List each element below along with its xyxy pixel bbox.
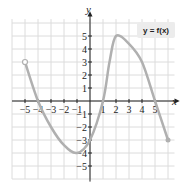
x-tick-label: −5 (20, 104, 31, 115)
closed-endpoint-icon (166, 138, 171, 143)
open-endpoint-icon (23, 60, 28, 65)
y-tick-label: 4 (82, 44, 87, 55)
x-axis-label: x (171, 95, 177, 107)
x-tick-label: −3 (46, 104, 57, 115)
x-tick-label: −2 (59, 104, 70, 115)
legend: y = f(x) (137, 22, 175, 38)
y-tick-label: 3 (82, 57, 87, 68)
y-tick-label: −2 (76, 122, 87, 133)
y-tick-label: −5 (76, 161, 87, 172)
y-tick-label: 1 (82, 83, 87, 94)
y-tick-label: −3 (76, 135, 87, 146)
legend-label: y = f(x) (143, 26, 169, 35)
function-graph: −5−4−3−2−112345−5−4−3−2−112345 y = f(x) … (0, 0, 183, 191)
y-tick-label: 5 (82, 31, 87, 42)
y-tick-label: −1 (76, 109, 87, 120)
x-tick-label: 4 (140, 104, 145, 115)
y-axis-label: y (85, 3, 91, 15)
x-tick-label: 3 (127, 104, 132, 115)
function-curve (23, 35, 171, 153)
curve-path (25, 35, 168, 153)
y-tick-label: 2 (82, 70, 87, 81)
x-tick-label: 2 (114, 104, 119, 115)
